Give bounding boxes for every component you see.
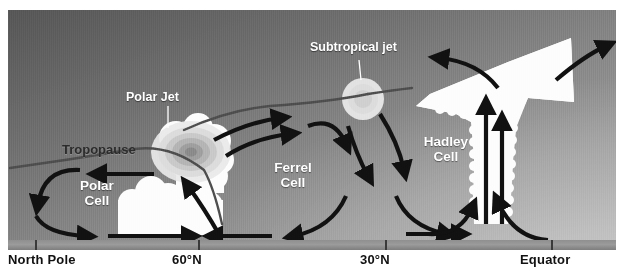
tropopause-label: Tropopause xyxy=(62,142,136,157)
subtropical-jet-label: Subtropical jet xyxy=(310,40,397,54)
polar-jet-label: Polar Jet xyxy=(126,90,179,104)
axis-label-north-pole: North Pole xyxy=(8,252,76,267)
tick-30n xyxy=(385,240,387,250)
polar-cell-label: Polar Cell xyxy=(60,178,134,208)
tick-60n xyxy=(198,240,200,250)
ferrel-cell-label: Ferrel Cell xyxy=(256,160,330,190)
figure-canvas: Tropopause Polar Jet Subtropical jet Pol… xyxy=(0,0,624,274)
axis-label-equator: Equator xyxy=(520,252,571,267)
tick-equator xyxy=(551,240,553,250)
subtropical-jet-leader xyxy=(359,60,361,80)
axis-label-60n: 60°N xyxy=(172,252,202,267)
tick-north-pole xyxy=(35,240,37,250)
hadley-cell-label: Hadley Cell xyxy=(406,134,486,164)
surface-bar xyxy=(8,240,616,250)
atmosphere-scene: Tropopause Polar Jet Subtropical jet Pol… xyxy=(8,10,616,250)
axis-label-30n: 30°N xyxy=(360,252,390,267)
